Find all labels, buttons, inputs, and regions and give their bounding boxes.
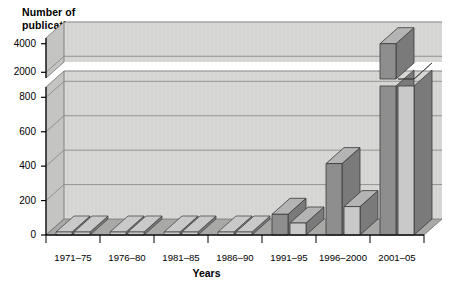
- x-axis-title-text: Years: [192, 267, 220, 279]
- bar-front-4-front: [290, 223, 306, 235]
- bar-back-4-front: [272, 214, 288, 235]
- chart-container: Number of publications 20004000020040060…: [0, 0, 465, 290]
- bar-front-6-front: [398, 86, 414, 235]
- bar-front-6-side: [414, 70, 432, 235]
- bar-front-5-front: [344, 207, 360, 235]
- plot-area: [0, 0, 465, 290]
- bar-back-upper-6-front: [380, 44, 396, 79]
- x-tick-label-6: 2001–05: [365, 252, 429, 263]
- bar-back-6-front: [380, 86, 396, 235]
- x-axis-title: Years: [0, 267, 465, 279]
- bar-back-5-front: [326, 164, 342, 235]
